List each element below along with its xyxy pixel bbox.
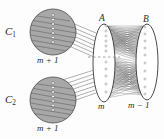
- vertex-set-a-size-label: m: [98, 102, 105, 111]
- clique-c2-label: C2: [5, 94, 16, 107]
- clique-c2[interactable]: [30, 77, 76, 123]
- clique-c1-size-label: m + 1: [37, 56, 59, 65]
- figure-canvas: C1 m + 1 C2 m + 1 A m B m − 1: [0, 0, 164, 139]
- clique-c2-size-label: m + 1: [37, 124, 59, 133]
- vertex-set-b-label: B: [143, 15, 149, 25]
- clique-c1-label: C1: [5, 26, 16, 39]
- clique-c1[interactable]: [30, 9, 76, 55]
- vertex-set-a-label: A: [99, 14, 105, 24]
- vertex-set-b[interactable]: [136, 24, 158, 100]
- diagram-svg: [0, 0, 164, 139]
- vertex-set-b-size-label: m − 1: [128, 101, 150, 110]
- vertex-set-a[interactable]: [93, 24, 115, 102]
